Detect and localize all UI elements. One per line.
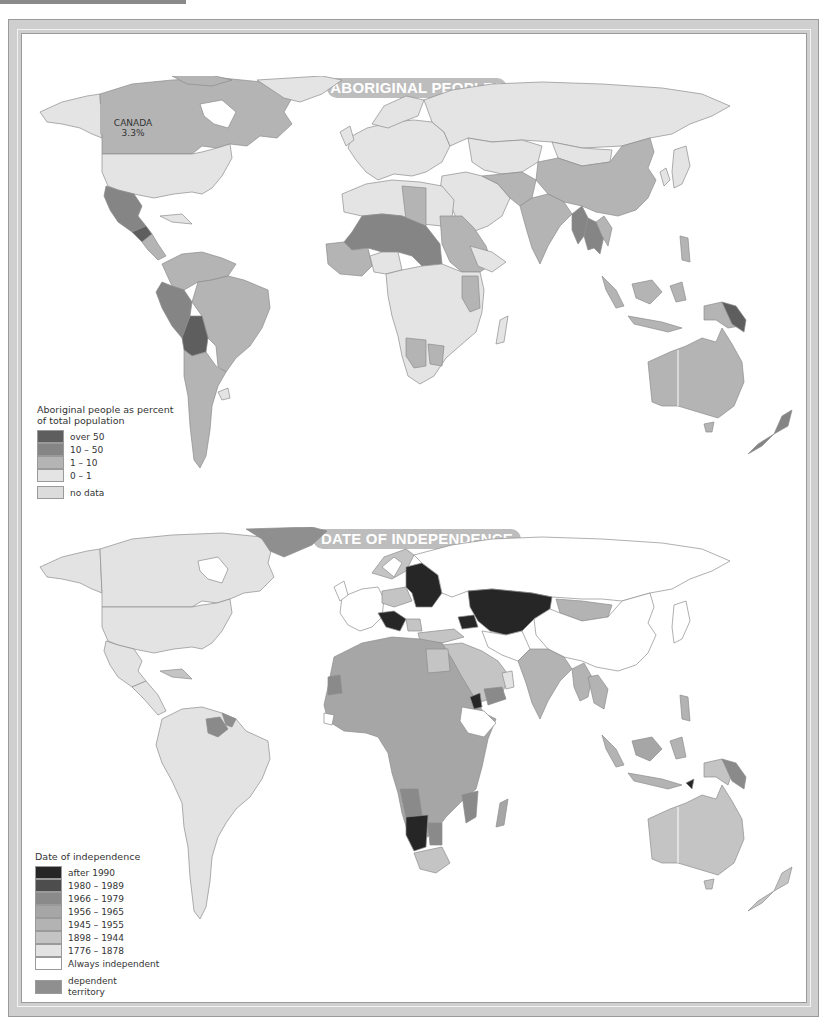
canada-callout-name: CANADA (103, 118, 163, 128)
legend-label: dependent territory (68, 976, 128, 998)
legend-label: over 50 (70, 432, 104, 442)
independence-legend: Date of independence after 1990 1980 – 1… (35, 851, 175, 1000)
region-australia (648, 785, 744, 875)
legend-label: 1898 – 1944 (68, 933, 124, 943)
legend-swatch (35, 944, 62, 957)
legend-swatch (35, 905, 62, 918)
legend-label: 1956 – 1965 (68, 907, 124, 917)
region-canada (100, 533, 274, 607)
legend-label: 1776 – 1878 (68, 946, 124, 956)
legend-title: Date of independence (35, 851, 175, 862)
legend-label: 1980 – 1989 (68, 881, 124, 891)
legend-item: over 50 (37, 430, 177, 443)
region-australia (648, 328, 744, 418)
aboriginal-legend: Aboriginal people as percent of total po… (37, 404, 177, 499)
region-balkans (378, 611, 406, 631)
legend-label: after 1990 (68, 868, 115, 878)
legend-label: 1 – 10 (70, 458, 97, 468)
region-usa (102, 599, 232, 653)
legend-item: 1945 – 1955 (35, 918, 175, 931)
legend-item: 0 – 1 (37, 469, 177, 482)
top-edge-bar (0, 0, 186, 4)
legend-swatch (35, 931, 62, 944)
legend-label: Always independent (68, 959, 159, 969)
region-namibia (406, 815, 428, 851)
region-alaska (40, 94, 102, 138)
legend-item: 1776 – 1878 (35, 944, 175, 957)
legend-swatch (37, 456, 64, 469)
legend-label: 1945 – 1955 (68, 920, 124, 930)
legend-label: no data (70, 488, 104, 498)
legend-item: 1980 – 1989 (35, 879, 175, 892)
region-new-zealand (774, 410, 792, 434)
canada-callout-value: 3.3% (103, 128, 163, 138)
legend-label: 1966 – 1979 (68, 894, 124, 904)
legend-swatch (37, 486, 64, 499)
legend-item: 1 – 10 (37, 456, 177, 469)
region-india (520, 194, 572, 264)
legend-swatch (35, 957, 62, 970)
region-europe (348, 120, 450, 180)
canada-callout: CANADA 3.3% (103, 118, 163, 138)
legend-swatch (37, 469, 64, 482)
region-russia (414, 537, 730, 601)
legend-title: Aboriginal people as percent of total po… (37, 404, 177, 426)
region-madagascar (496, 799, 508, 827)
legend-swatch (35, 866, 62, 879)
legend-item: Always independent (35, 957, 175, 970)
region-south-asia (518, 649, 572, 719)
legend-label: 0 – 1 (70, 471, 92, 481)
legend-swatch (35, 879, 62, 892)
legend-item: no data (37, 486, 177, 499)
region-central-asia (468, 138, 542, 174)
legend-swatch (35, 892, 62, 905)
legend-swatch (37, 430, 64, 443)
legend-item: 10 – 50 (37, 443, 177, 456)
legend-item: 1966 – 1979 (35, 892, 175, 905)
legend-swatch (37, 443, 64, 456)
legend-label: 10 – 50 (70, 445, 103, 455)
legend-item: 1956 – 1965 (35, 905, 175, 918)
legend-swatch (35, 980, 62, 994)
region-madagascar (496, 316, 508, 344)
legend-item: dependent territory (35, 974, 175, 1000)
legend-swatch (35, 918, 62, 931)
legend-item: after 1990 (35, 866, 175, 879)
legend-item: 1898 – 1944 (35, 931, 175, 944)
